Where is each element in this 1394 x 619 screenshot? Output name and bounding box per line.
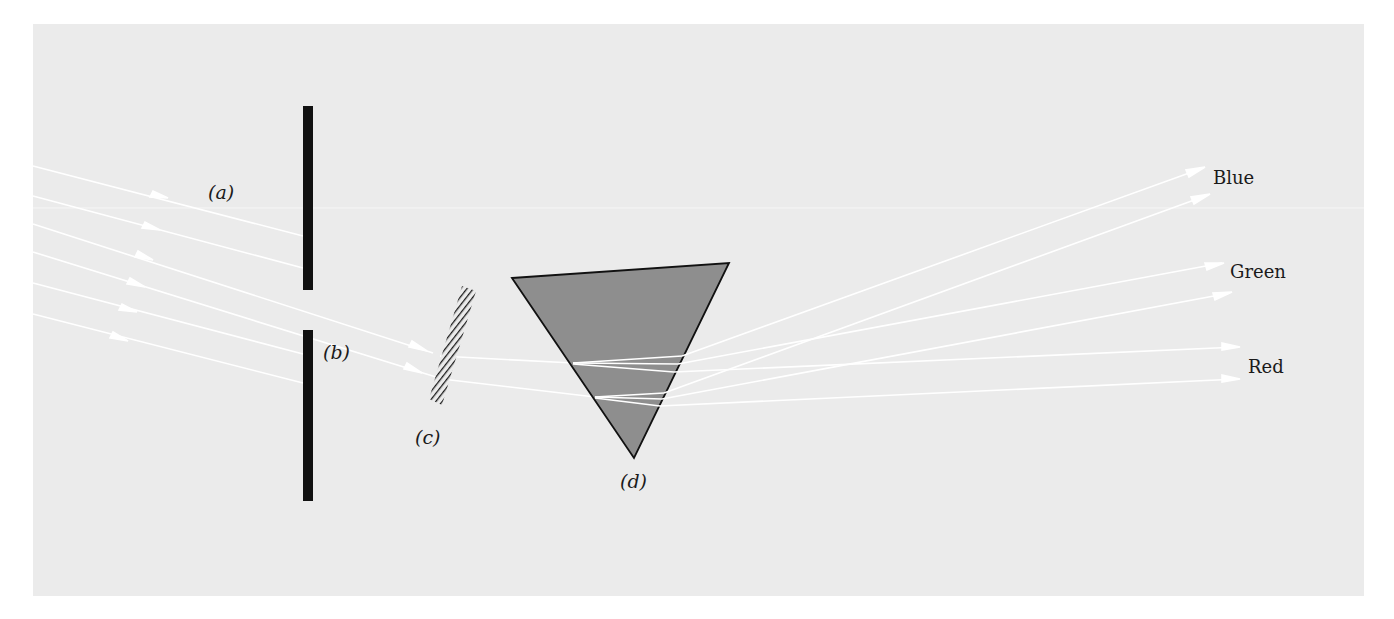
label-blue: Blue — [1213, 169, 1254, 187]
label-b: (b) — [323, 343, 350, 362]
arrowhead-icon — [127, 278, 145, 287]
dispersed-rays — [660, 167, 1240, 406]
filter — [429, 286, 476, 405]
incident-ray-6 — [33, 314, 303, 383]
arrowhead-icon — [1191, 194, 1210, 204]
blue-ray-1 — [682, 168, 1203, 356]
arrowhead-icon — [409, 341, 427, 351]
arrowhead-icon — [142, 222, 160, 230]
arrowhead-icon — [1186, 167, 1205, 177]
incident-ray-1 — [33, 166, 303, 236]
label-red: Red — [1248, 358, 1284, 376]
incident-rays — [33, 166, 436, 383]
arrowhead-icon — [135, 251, 153, 260]
arrowhead-icon — [1222, 375, 1240, 382]
arrowhead-icon — [1213, 292, 1232, 300]
label-a: (a) — [208, 183, 234, 202]
arrowhead-icon — [1222, 343, 1240, 350]
arrowhead-icon — [404, 363, 422, 373]
incident-ray-3 — [33, 224, 433, 353]
incident-ray-2 — [33, 196, 303, 268]
optics-diagram — [0, 0, 1394, 619]
label-d: (d) — [620, 472, 647, 491]
red-ray-1 — [674, 347, 1238, 372]
label-green: Green — [1230, 263, 1286, 281]
arrowhead-icon — [1205, 263, 1224, 270]
slit-barrier-lower — [303, 330, 313, 501]
arrowhead-icon — [110, 332, 128, 341]
green-ray-1 — [678, 263, 1222, 364]
slit-barrier-upper — [303, 106, 313, 290]
label-c: (c) — [415, 428, 440, 447]
blue-ray-2 — [664, 195, 1208, 393]
arrowhead-icon — [119, 304, 137, 312]
incident-ray-4 — [33, 252, 436, 377]
figure-stage: (a) (b) (c) (d) Blue Green Red — [0, 0, 1394, 619]
arrowhead-icon — [150, 191, 168, 198]
